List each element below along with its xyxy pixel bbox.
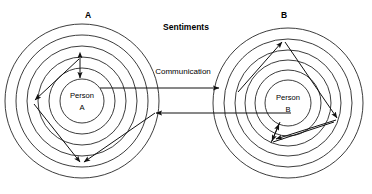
- core-circle-b: [265, 80, 311, 126]
- group-a-rings: [5, 24, 159, 178]
- person-b-label-line2: B: [285, 105, 290, 114]
- diagram-canvas: A B Sentiments Communication Person A Pe…: [0, 0, 372, 194]
- group-b-rings: [213, 28, 363, 178]
- communication-label: Communication: [155, 67, 211, 76]
- sentiments-communication-diagram: A B Sentiments Communication Person A Pe…: [0, 0, 372, 194]
- diagram-title: Sentiments: [163, 22, 209, 32]
- group-a-label: A: [85, 10, 91, 20]
- core-circle-a: [60, 79, 104, 123]
- person-a-label-line1: Person: [70, 91, 94, 100]
- person-b-label-line1: Person: [276, 93, 300, 102]
- communication-arrows: [100, 88, 291, 113]
- sentiment-arrow-a-lower-right: [84, 113, 155, 162]
- group-b-label: B: [281, 10, 287, 20]
